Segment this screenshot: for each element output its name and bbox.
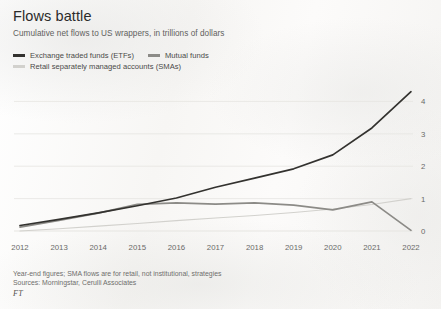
footnote-sources: Sources: Morningstar, Cerulli Associates — [13, 278, 221, 287]
x-axis-tick-label: 2012 — [11, 243, 28, 252]
x-axis-tick-label: 2021 — [363, 243, 380, 252]
x-axis-tick-label: 2015 — [129, 243, 146, 252]
chart-figure: Flows battle Cumulative net flows to US … — [0, 0, 441, 309]
chart-footnotes: Year-end figures; SMA flows are for reta… — [13, 269, 221, 298]
ft-logo: FT — [13, 289, 221, 298]
x-axis-tick-label: 2017 — [207, 243, 224, 252]
x-axis-tick-label: 2013 — [50, 243, 67, 252]
y-axis-tick-label: 4 — [421, 97, 425, 106]
x-axis-tick-label: 2019 — [285, 243, 302, 252]
y-axis-tick-label: 1 — [421, 194, 425, 203]
x-axis-tick-label: 2016 — [168, 243, 185, 252]
x-axis-tick-label: 2020 — [324, 243, 341, 252]
x-axis-tick-label: 2022 — [402, 243, 419, 252]
x-axis-tick-label: 2018 — [246, 243, 263, 252]
y-axis-tick-label: 2 — [421, 162, 425, 171]
y-axis-tick-label: 3 — [421, 129, 425, 138]
plot-area: 2012201320142015201620172018201920202021… — [0, 0, 441, 309]
y-axis-tick-label: 0 — [421, 227, 425, 236]
footnote-methodology: Year-end figures; SMA flows are for reta… — [13, 269, 221, 278]
x-axis-tick-label: 2014 — [90, 243, 107, 252]
chart-svg — [0, 0, 441, 309]
